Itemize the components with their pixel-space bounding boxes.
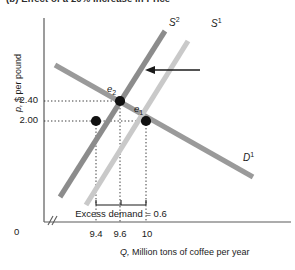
excess-demand-bracket-icon [96,200,146,205]
curve-label-s2: S2 [169,16,180,28]
x-axis-label-var: Q, [120,247,130,257]
x-axis-label-unit: Million tons of coffee per year [130,247,250,257]
excess-demand-label: Excess demand = 0.6 [56,208,186,219]
point-label-e1-sub: 1 [139,109,143,116]
curve-label-s1-sup: 1 [218,17,222,24]
curve-label-s2-text: S [169,17,176,28]
supply-demand-figure: (b) Effect of a 20% Increase in Price [0,0,295,270]
curve-supply-s1 [86,41,188,205]
point-label-e2: e2 [107,83,116,96]
y-axis-label-var: p, [13,105,23,113]
y-tick-200: 2.00 [4,114,38,125]
curve-label-s2-sup: 2 [176,16,180,23]
y-tick-240: 2.40 [4,94,38,105]
curve-label-d1: D1 [243,151,254,163]
curve-label-s1-text: S [211,18,218,29]
point-label-e2-sub: 2 [112,89,116,96]
point-label-e1: e1 [134,103,143,116]
x-tick-10: 10 [133,228,161,239]
curve-supply-s2 [60,31,165,197]
curve-label-s1: S1 [211,17,222,29]
point-quantity-supplied [91,116,101,126]
origin-label: 0 [14,226,19,237]
x-tick-96: 9.6 [106,228,134,239]
point-e2 [115,96,125,106]
x-axis-label: Q, Million tons of coffee per year [120,247,249,257]
curve-label-d1-sup: 1 [250,151,254,158]
point-e1 [141,116,151,126]
